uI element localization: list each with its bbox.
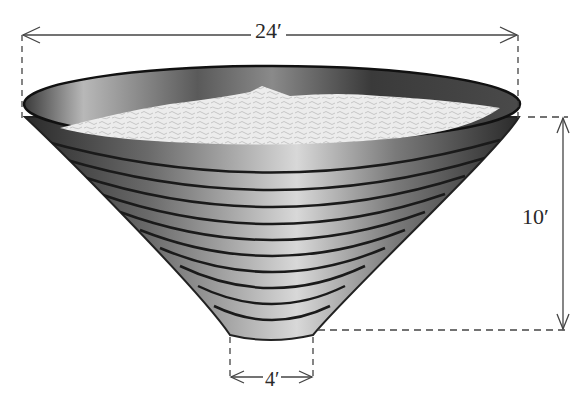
height-label: 10′ xyxy=(522,203,549,231)
conical-bowl-diagram xyxy=(0,0,586,399)
bottom-diameter-label: 4′ xyxy=(263,369,281,389)
bowl-body xyxy=(25,117,519,340)
top-diameter-label: 24′ xyxy=(251,20,286,42)
